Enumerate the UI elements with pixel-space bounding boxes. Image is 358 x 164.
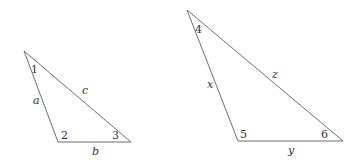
angle-label-2: 2 — [61, 129, 68, 142]
triangle-xyz: 4 5 6 x z y — [187, 10, 343, 157]
side-label-a: a — [33, 94, 40, 107]
side-label-c: c — [82, 84, 88, 97]
triangle-abc: 1 2 3 a c b — [24, 51, 131, 158]
side-label-b: b — [92, 145, 99, 158]
angle-label-1: 1 — [31, 63, 38, 76]
angle-label-4: 4 — [195, 23, 202, 36]
angle-label-5: 5 — [240, 128, 247, 141]
angle-label-3: 3 — [112, 129, 119, 142]
side-label-x: x — [207, 78, 214, 91]
side-label-y: y — [287, 144, 295, 157]
side-label-z: z — [271, 68, 278, 81]
triangles-diagram: 1 2 3 a c b 4 5 6 x z y — [0, 0, 358, 164]
triangle-xyz-outline — [187, 10, 343, 141]
angle-label-6: 6 — [321, 128, 328, 141]
